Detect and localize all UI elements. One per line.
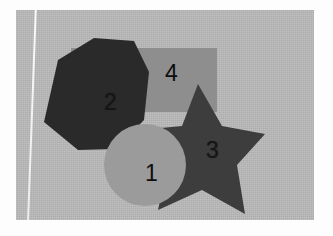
scanned-image-page: 4 2 3 1 (0, 0, 333, 236)
label-3: 3 (206, 139, 219, 162)
label-4: 4 (165, 62, 178, 85)
shape-circle (16, 10, 314, 220)
label-2: 2 (104, 91, 117, 114)
photo-backdrop: 4 2 3 1 (16, 10, 314, 220)
label-1: 1 (145, 162, 158, 185)
